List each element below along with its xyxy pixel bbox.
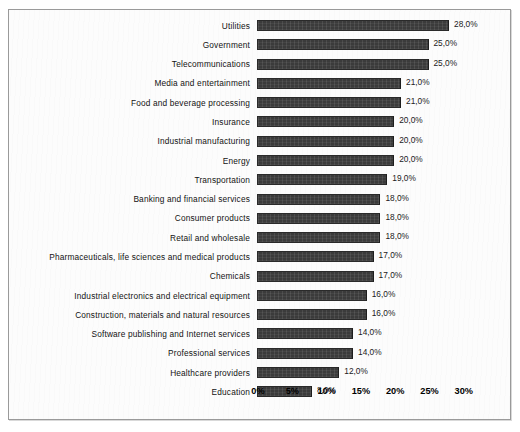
bar [257,328,353,339]
bar-container [257,194,380,205]
bar-row: Consumer products18,0% [9,209,510,228]
category-label: Transportation [9,175,250,185]
bar [257,59,429,70]
data-label: 25,0% [434,37,458,49]
category-label: Consumer products [9,213,250,223]
category-label: Banking and financial services [9,194,250,204]
bar [257,348,353,359]
category-label: Pharmaceuticals, life sciences and medic… [9,252,250,262]
data-label: 14,0% [358,346,382,358]
bar-row: Software publishing and Internet service… [9,324,510,343]
plot-area: Utilities28,0%Government25,0%Telecommuni… [9,10,510,419]
bar-row: Construction, materials and natural reso… [9,305,510,324]
bar-row: Insurance20,0% [9,112,510,131]
category-label: Government [9,40,250,50]
bar-container [257,271,374,282]
bar [257,290,367,301]
bar-row: Food and beverage processing21,0% [9,93,510,112]
x-axis: 0%5%10%15%20%25%30% [9,385,510,401]
bar-row: Industrial manufacturing20,0% [9,132,510,151]
category-label: Construction, materials and natural reso… [9,310,250,320]
x-tick-label: 5% [286,385,299,397]
bar-row: Pharmaceuticals, life sciences and medic… [9,247,510,266]
bar-container [257,116,394,127]
category-label: Software publishing and Internet service… [9,329,250,339]
data-label: 16,0% [372,288,396,300]
data-label: 16,0% [372,307,396,319]
category-label: Chemicals [9,271,250,281]
bar [257,174,387,185]
x-tick-label: 20% [386,385,404,397]
x-tick-label: 0% [251,385,264,397]
data-label: 18,0% [385,192,409,204]
bar [257,194,380,205]
data-label: 20,0% [399,134,423,146]
data-label: 14,0% [358,326,382,338]
data-label: 17,0% [379,249,403,261]
category-label: Media and entertainment [9,78,250,88]
category-label: Telecommunications [9,59,250,69]
bar-container [257,348,353,359]
bar-container [257,174,387,185]
bar-row: Retail and wholesale18,0% [9,228,510,247]
data-label: 18,0% [385,211,409,223]
bar-container [257,251,374,262]
bar [257,251,374,262]
category-label: Energy [9,156,250,166]
data-label: 17,0% [379,269,403,281]
bar-container [257,20,449,31]
data-label: 19,0% [392,172,416,184]
bar-container [257,290,367,301]
bar [257,136,394,147]
bar-container [257,97,401,108]
x-tick-label: 10% [317,385,335,397]
data-label: 21,0% [406,95,430,107]
bar-row: Government25,0% [9,35,510,54]
bar-container [257,39,429,50]
bar-row: Healthcare providers12,0% [9,363,510,382]
data-label: 18,0% [385,230,409,242]
data-label: 20,0% [399,153,423,165]
bar-container [257,367,339,378]
category-label: Insurance [9,117,250,127]
bar [257,155,394,166]
bar-row: Banking and financial services18,0% [9,190,510,209]
x-tick-label: 25% [420,385,438,397]
data-label: 12,0% [344,365,368,377]
category-label: Professional services [9,348,250,358]
bar [257,20,449,31]
bar-row: Utilities28,0% [9,16,510,35]
bar [257,367,339,378]
bar-row: Industrial electronics and electrical eq… [9,286,510,305]
category-label: Industrial manufacturing [9,136,250,146]
bar-container [257,59,429,70]
bar [257,213,380,224]
bar [257,116,394,127]
data-label: 28,0% [454,18,478,30]
bar [257,39,429,50]
data-label: 21,0% [406,76,430,88]
bar-row: Energy20,0% [9,151,510,170]
bar [257,97,401,108]
bar-row: Chemicals17,0% [9,267,510,286]
bar-container [257,155,394,166]
bar-container [257,213,380,224]
bar-row: Media and entertainment21,0% [9,74,510,93]
bar-row: Transportation19,0% [9,170,510,189]
bar-container [257,232,380,243]
category-label: Food and beverage processing [9,98,250,108]
data-label: 20,0% [399,114,423,126]
bar-container [257,136,394,147]
bar [257,232,380,243]
bar [257,271,374,282]
bar-container [257,78,401,89]
category-label: Healthcare providers [9,368,250,378]
chart-frame: Utilities28,0%Government25,0%Telecommuni… [8,9,511,420]
bar-row: Telecommunications25,0% [9,55,510,74]
bar-container [257,328,353,339]
x-tick-label: 30% [455,385,473,397]
bar-container [257,309,367,320]
bar [257,78,401,89]
bar [257,309,367,320]
category-label: Retail and wholesale [9,233,250,243]
